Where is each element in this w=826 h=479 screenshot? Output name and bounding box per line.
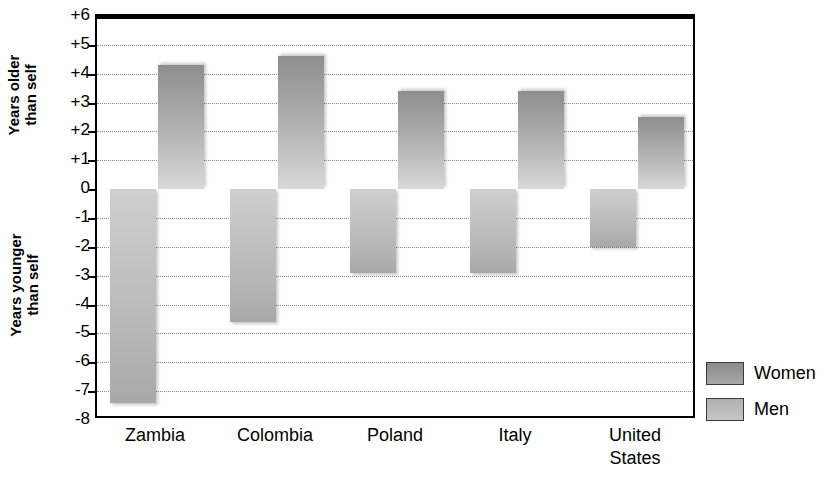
x-category-label: Zambia	[95, 424, 215, 447]
bar-men-italy	[518, 91, 564, 189]
gridline	[97, 45, 693, 46]
y-tick-label: +3	[44, 92, 90, 109]
chart-page: Years older than self Years younger than…	[0, 0, 826, 479]
plot-area	[95, 14, 695, 418]
y-tick-label: -8	[44, 410, 90, 427]
legend-swatch-women	[706, 362, 744, 385]
y-tickmark	[88, 276, 97, 278]
y-tick-label: +1	[44, 150, 90, 167]
y-tickmark	[88, 103, 97, 105]
y-tickmark	[88, 218, 97, 220]
legend-item-men: Men	[706, 394, 824, 424]
legend-label-women: Women	[754, 363, 816, 384]
bar-women-poland	[350, 189, 396, 273]
y-tickmark	[88, 189, 97, 191]
y-tickmark	[88, 247, 97, 249]
y-tickmark	[88, 391, 97, 393]
plot-inner	[97, 16, 693, 416]
legend-item-women: Women	[706, 358, 824, 388]
gridline	[97, 276, 693, 277]
bar-women-colombia	[230, 189, 276, 322]
gridline	[97, 305, 693, 306]
y-tickmark	[88, 45, 97, 47]
x-category-label: Italy	[455, 424, 575, 447]
y-axis-tick-labels: +6+5+4+3+2+10-1-2-3-4-5-6-7-8	[42, 0, 90, 479]
x-axis-category-labels: ZambiaColombiaPolandItalyUnited States	[95, 424, 695, 476]
y-tick-label: -3	[44, 265, 90, 282]
y-tick-label: 0	[44, 179, 90, 196]
legend-label-men: Men	[754, 399, 789, 420]
y-tick-label: +5	[44, 34, 90, 51]
y-tick-label: +2	[44, 121, 90, 138]
bar-women-united-states	[590, 189, 636, 247]
bar-men-colombia	[278, 56, 324, 189]
y-tick-label: -7	[44, 381, 90, 398]
y-tick-label: +6	[44, 6, 90, 23]
x-category-label: Poland	[335, 424, 455, 447]
x-category-label: United States	[575, 424, 695, 470]
y-tickmark	[88, 160, 97, 162]
y-tickmark	[88, 333, 97, 335]
y-tick-label: +4	[44, 63, 90, 80]
bar-women-italy	[470, 189, 516, 273]
chart-legend: Women Men	[706, 358, 824, 430]
zero-baseline	[97, 16, 693, 19]
y-tick-label: -6	[44, 352, 90, 369]
y-tick-label: -4	[44, 294, 90, 311]
gridline	[97, 391, 693, 392]
y-axis-title-lower: Years younger than self	[7, 215, 41, 355]
y-tickmark	[88, 74, 97, 76]
bar-men-poland	[398, 91, 444, 189]
y-axis-title-upper: Years older than self	[5, 40, 39, 150]
y-tick-label: -5	[44, 323, 90, 340]
y-tickmark	[88, 305, 97, 307]
bar-women-zambia	[110, 189, 156, 403]
x-category-label: Colombia	[215, 424, 335, 447]
y-tickmark	[88, 362, 97, 364]
bar-men-united-states	[638, 117, 684, 189]
bar-men-zambia	[158, 65, 204, 189]
y-tick-label: -1	[44, 208, 90, 225]
gridline	[97, 333, 693, 334]
gridline	[97, 362, 693, 363]
y-tickmark	[88, 131, 97, 133]
legend-swatch-men	[706, 398, 744, 421]
y-tick-label: -2	[44, 236, 90, 253]
